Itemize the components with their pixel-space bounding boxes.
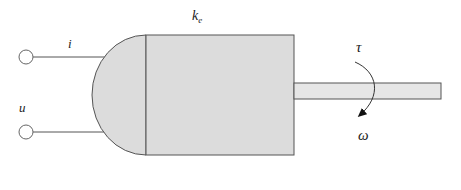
input-terminal-top [19, 50, 33, 64]
angular-velocity-label: ω [358, 127, 369, 143]
motor-end-cap [92, 35, 146, 155]
motor-diagram: i u ke τ ω [0, 0, 461, 190]
torque-label: τ [356, 39, 362, 55]
motor-constant-label: ke [192, 8, 202, 25]
input-terminal-bottom [19, 125, 33, 139]
motor-body [146, 35, 294, 155]
voltage-label: u [19, 100, 26, 115]
output-shaft [294, 83, 441, 99]
motor-constant-subscript: e [198, 15, 202, 25]
current-label: i [68, 36, 72, 51]
